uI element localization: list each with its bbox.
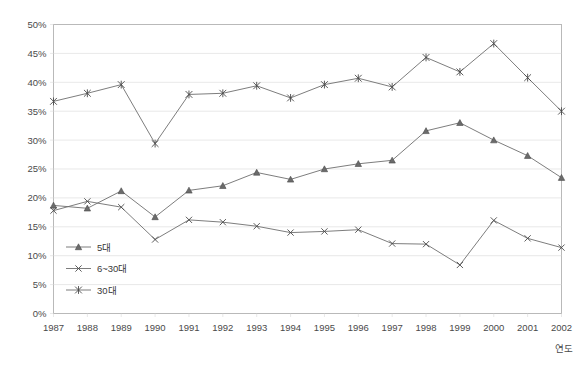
x-axis-title: 연도	[555, 343, 573, 354]
y-axis-tick-label: 5%	[33, 279, 47, 290]
x-axis-tick-label: 1988	[77, 322, 98, 333]
x-axis-tick-label: 2001	[517, 322, 538, 333]
y-axis-tick-label: 15%	[27, 221, 47, 232]
y-axis-tick-label: 45%	[27, 48, 47, 59]
x-axis-tick-label: 1992	[212, 322, 233, 333]
x-axis-tick-label: 1987	[43, 322, 64, 333]
y-axis-tick-label: 10%	[27, 250, 47, 261]
y-axis-tick-label: 50%	[27, 19, 47, 30]
legend-label: 30대	[97, 285, 117, 296]
x-axis-tick-label: 1998	[415, 322, 436, 333]
x-axis-tick-label: 2002	[551, 322, 572, 333]
y-axis-tick-label: 20%	[27, 192, 47, 203]
x-axis-tick-label: 2000	[483, 322, 504, 333]
y-axis-tick-label: 0%	[33, 308, 47, 319]
x-axis-tick-label: 1993	[246, 322, 267, 333]
chart-canvas: 0%5%10%15%20%25%30%35%40%45%50%198719881…	[0, 0, 581, 374]
legend-label: 5대	[97, 242, 111, 253]
y-axis-tick-label: 40%	[27, 77, 47, 88]
legend-label: 6~30대	[97, 263, 127, 274]
y-axis-tick-label: 30%	[27, 135, 47, 146]
y-axis-tick-label: 35%	[27, 106, 47, 117]
line-chart: 0%5%10%15%20%25%30%35%40%45%50%198719881…	[0, 0, 581, 374]
x-axis-tick-label: 1991	[178, 322, 199, 333]
x-axis-tick-label: 1994	[280, 322, 301, 333]
y-axis-tick-label: 25%	[27, 163, 47, 174]
x-axis-tick-label: 1990	[145, 322, 166, 333]
x-axis-tick-label: 1995	[314, 322, 335, 333]
x-axis-tick-label: 1997	[382, 322, 403, 333]
x-axis-tick-label: 1999	[449, 322, 470, 333]
x-axis-tick-label: 1996	[348, 322, 369, 333]
x-axis-tick-label: 1989	[111, 322, 132, 333]
